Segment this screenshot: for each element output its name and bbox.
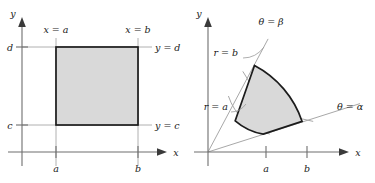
polar-sector-panel: y x a b θ = β θ = α r = b r = a — [188, 0, 375, 183]
figure-root: y x d c a b x = a x = b y = d y = c — [0, 0, 375, 183]
label-x-equals-b: x = b — [125, 24, 150, 35]
x-axis-label: x — [355, 147, 361, 158]
label-y-equals-c: y = c — [154, 120, 180, 131]
cartesian-diagram-svg: y x d c a b x = a x = b y = d y = c — [0, 0, 188, 183]
x-axis-arrowhead — [157, 148, 167, 156]
y-axis-arrowhead — [18, 17, 26, 27]
y-axis-label: y — [195, 8, 202, 19]
x-tick-label-b: b — [135, 163, 141, 174]
label-r-equals-b: r = b — [213, 47, 238, 58]
y-axis-label: y — [9, 8, 16, 19]
label-theta-equals-beta: θ = β — [258, 16, 284, 27]
x-tick-label-b: b — [304, 163, 310, 174]
y-tick-label-c: c — [7, 120, 13, 131]
label-r-equals-a: r = a — [204, 101, 229, 112]
polar-diagram-svg: y x a b θ = β θ = α r = b r = a — [188, 0, 375, 183]
x-tick-label-a: a — [263, 163, 269, 174]
x-tick-label-a: a — [53, 163, 59, 174]
label-y-equals-d: y = d — [154, 42, 180, 53]
x-axis-arrowhead — [339, 148, 349, 156]
label-x-equals-a: x = a — [43, 24, 68, 35]
x-axis-label: x — [173, 147, 179, 158]
label-theta-equals-alpha: θ = α — [337, 101, 364, 112]
shaded-rectangle-region — [56, 47, 138, 125]
y-axis-arrowhead — [204, 17, 212, 27]
y-tick-label-d: d — [7, 42, 13, 53]
rectangular-region-panel: y x d c a b x = a x = b y = d y = c — [0, 0, 188, 183]
